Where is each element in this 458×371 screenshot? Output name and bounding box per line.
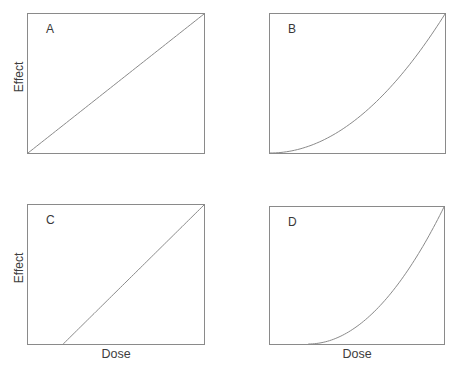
panel-c-label: C bbox=[46, 213, 55, 227]
panel-d-label: D bbox=[288, 215, 297, 229]
x-axis-label-panel-c: Dose bbox=[27, 347, 205, 361]
y-axis-label-panel-c: Effect bbox=[12, 198, 26, 338]
panel-b-plot-area: B bbox=[269, 13, 446, 154]
panel-b-label: B bbox=[288, 22, 297, 36]
dose-response-figure: Effect A B Effect C Dose D Dose bbox=[0, 0, 458, 371]
panel-a-plot-area: A bbox=[27, 13, 205, 154]
panel-d-plot-area: D bbox=[269, 206, 445, 345]
x-axis-label-panel-d: Dose bbox=[269, 347, 445, 361]
panel-c-plot-area: C bbox=[27, 204, 205, 345]
panel-a-label: A bbox=[46, 22, 55, 36]
y-axis-label-panel-a: Effect bbox=[12, 7, 26, 147]
